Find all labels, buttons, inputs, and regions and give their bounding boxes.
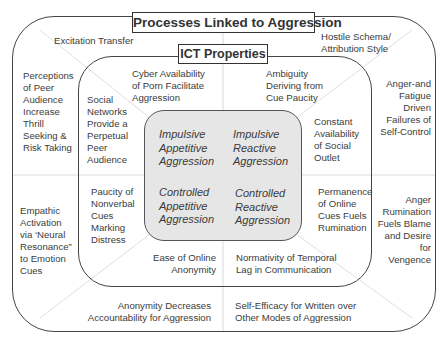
ict-social-networks: Social Networks Provide a Perpetual Peer… bbox=[87, 94, 128, 166]
ict-porn-availability: Cyber Availability of Porn Facilitate Ag… bbox=[132, 68, 205, 104]
type-controlled-appetitive: Controlled Appetitive Aggression bbox=[159, 186, 214, 227]
ict-constant-availability: Constant Availability of Social Outlet bbox=[314, 116, 359, 164]
process-empathic-activation: Empathic Activation via ‘Neural Resonanc… bbox=[20, 205, 72, 277]
ict-properties-title: ICT Properties bbox=[178, 44, 268, 64]
process-anonymity-accountability: Anonymity Decreases Accountability for A… bbox=[88, 300, 211, 324]
ict-online-anonymity: Ease of Online Anonymity bbox=[153, 252, 216, 276]
process-excitation-transfer: Excitation Transfer bbox=[54, 35, 133, 47]
process-hostile-schema: Hostile Schema/ Attribution Style bbox=[321, 31, 391, 55]
ict-nonverbal-paucity: Paucity of Nonverbal Cues Marking Distre… bbox=[91, 186, 135, 246]
ict-temporal-lag: Normativity of Temporal Lag in Communica… bbox=[236, 252, 337, 276]
process-written-self-efficacy: Self-Efficacy for Written over Other Mod… bbox=[235, 300, 356, 324]
type-controlled-reactive: Controlled Reactive Aggression bbox=[235, 187, 290, 228]
diagram-title: Processes Linked to Aggression bbox=[132, 12, 315, 33]
ict-ambiguity: Ambiguity Deriving from Cue Paucity bbox=[266, 68, 323, 104]
ict-permanence: Permanence of Online Cues Fuels Ruminati… bbox=[318, 186, 372, 234]
type-impulsive-appetitive: Impulsive Appetitive Aggression bbox=[159, 128, 214, 169]
process-anger-rumination: Anger Rumination Fuels Blame and Desire … bbox=[378, 194, 431, 266]
type-impulsive-reactive: Impulsive Reactive Aggression bbox=[233, 128, 288, 169]
process-peer-audience-thrill: Perceptions of Peer Audience Increase Th… bbox=[23, 70, 74, 154]
process-self-control-failure: Anger-and Fatigue Driven Failures of Sel… bbox=[380, 78, 431, 138]
